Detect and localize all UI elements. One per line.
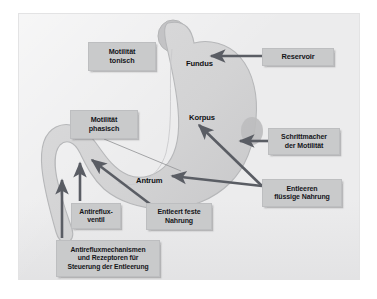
figure-canvas: FundusKorpusAntrum Motilität tonischRese… <box>0 0 377 299</box>
callout-antirefluxmechanismen: Antirefluxmechanismen und Rezeptoren für… <box>56 240 160 277</box>
callout-entleert-feste-nahrung: Entleert feste Nahrung <box>146 203 212 230</box>
region-label-korpus: Korpus <box>189 113 215 122</box>
callout-schrittmacher-der-motilitaet: Schrittmacher der Motilität <box>268 128 340 155</box>
callout-motilitaet-phasisch: Motilität phasisch <box>70 110 138 139</box>
callout-antirefluxventil: Antireflux- ventil <box>71 203 121 229</box>
callout-reservoir: Reservoir <box>262 48 334 66</box>
callout-motilitaet-tonisch: Motilität tonisch <box>88 42 156 71</box>
region-label-antrum: Antrum <box>136 176 162 185</box>
callout-entleeren-fluessige-nahrung: Entleeren flüssige Nahrung <box>262 179 342 207</box>
leader-lines-group <box>104 139 181 171</box>
region-label-fundus: Fundus <box>186 59 213 68</box>
leader-phasisch-to-corpus <box>104 139 181 171</box>
